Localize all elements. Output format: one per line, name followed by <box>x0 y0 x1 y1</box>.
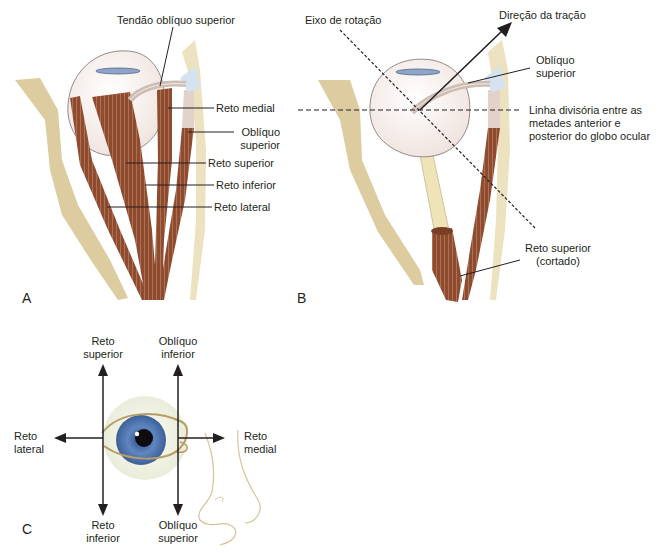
panel-c-illustration <box>54 364 260 545</box>
label-c-up-right: Oblíquo inferior <box>153 335 203 361</box>
label-c-right: Reto medial <box>244 430 276 456</box>
panel-a-illustration <box>15 27 234 300</box>
label-superior-oblique-a: Oblíquo superior <box>236 126 280 152</box>
label-medial-rectus-a: Reto medial <box>216 102 275 115</box>
label-c-up-left: Reto superior <box>78 335 128 361</box>
extraocular-muscles-figure: Tendão oblíquo superior Reto medial Oblí… <box>0 0 668 553</box>
label-c-down-right: Oblíquo superior <box>153 519 203 545</box>
label-lateral-rectus-a: Reto lateral <box>214 201 270 214</box>
label-inferior-rectus-a: Reto inferior <box>216 179 276 192</box>
label-superior-oblique-b: Oblíquo superior <box>536 54 576 80</box>
label-c-left: Reto lateral <box>14 430 44 456</box>
label-superior-oblique-tendon: Tendão oblíquo superior <box>117 14 235 27</box>
panel-letter-b: B <box>297 290 306 306</box>
label-rotation-axis: Eixo de rotação <box>305 14 381 27</box>
anatomy-illustration <box>0 0 668 553</box>
panel-letter-a: A <box>22 290 31 306</box>
panel-letter-c: C <box>22 521 32 537</box>
label-c-down-left: Reto inferior <box>78 519 128 545</box>
label-superior-rectus-cut: Reto superior (cortado) <box>516 242 600 268</box>
label-superior-rectus-a: Reto superior <box>208 157 274 170</box>
panel-b-illustration <box>298 22 535 302</box>
label-dividing-line: Linha divisória entre as metades anterio… <box>529 104 650 143</box>
label-pull-direction: Direção da tração <box>499 9 586 22</box>
